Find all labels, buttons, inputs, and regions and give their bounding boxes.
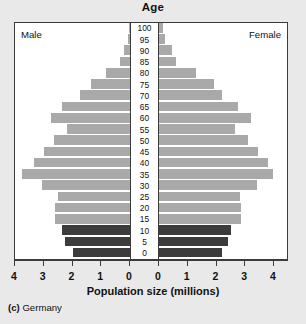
male-bar <box>65 237 130 247</box>
age-tick-label: 30 <box>131 182 158 190</box>
x-tick-label-left-2: 2 <box>62 270 82 282</box>
female-band-50 <box>159 135 287 146</box>
female-bar <box>159 102 238 112</box>
female-bar <box>159 57 176 67</box>
female-bar <box>159 237 228 247</box>
x-tick-label-right-2: 2 <box>206 270 226 282</box>
age-tick-label: 10 <box>131 227 158 235</box>
male-band-70 <box>15 90 130 101</box>
male-bar <box>55 214 130 224</box>
female-bar <box>159 225 231 235</box>
male-bars-panel <box>15 23 130 259</box>
x-tick <box>273 260 274 266</box>
age-axis: 1009590858075706560555045403530252015105… <box>130 23 159 259</box>
x-tick-label-right-1: 1 <box>177 270 197 282</box>
female-band-30 <box>159 180 287 191</box>
age-tick-label: 20 <box>131 204 158 212</box>
female-bar <box>159 158 268 168</box>
female-bars-panel <box>159 23 287 259</box>
male-band-0 <box>15 248 130 259</box>
female-band-40 <box>159 158 287 169</box>
age-tick-label: 85 <box>131 58 158 66</box>
age-tick-label: 55 <box>131 126 158 134</box>
x-tick-label-left-4: 4 <box>4 270 24 282</box>
x-tick-label-left-1: 1 <box>90 270 110 282</box>
female-bar <box>159 169 273 179</box>
male-band-25 <box>15 192 130 203</box>
age-tick-label: 90 <box>131 47 158 55</box>
x-axis-title: Population size (millions) <box>0 285 306 297</box>
x-tick <box>129 260 130 266</box>
caption-country: Germany <box>22 302 61 313</box>
age-tick-label: 5 <box>131 238 158 246</box>
male-bar <box>73 248 131 258</box>
male-bar <box>55 203 130 213</box>
male-band-5 <box>15 237 130 248</box>
female-band-20 <box>159 203 287 214</box>
female-band-10 <box>159 225 287 236</box>
female-bar <box>159 192 240 202</box>
x-tick <box>158 260 159 266</box>
female-bar <box>159 79 214 89</box>
male-band-15 <box>15 214 130 225</box>
male-band-75 <box>15 79 130 90</box>
male-bar <box>120 57 130 67</box>
male-band-40 <box>15 158 130 169</box>
female-band-65 <box>159 102 287 113</box>
caption-tag: (c) <box>8 302 20 313</box>
male-band-90 <box>15 45 130 56</box>
age-tick-label: 15 <box>131 215 158 223</box>
male-bar <box>106 68 130 78</box>
age-tick-label: 50 <box>131 137 158 145</box>
female-bar <box>159 68 196 78</box>
age-tick-label: 75 <box>131 81 158 89</box>
plot-area: 1009590858075706560555045403530252015105… <box>14 22 288 260</box>
male-bar <box>42 180 130 190</box>
male-band-30 <box>15 180 130 191</box>
male-band-35 <box>15 169 130 180</box>
x-tick <box>14 260 15 266</box>
male-band-60 <box>15 113 130 124</box>
female-side-label: Female <box>249 29 281 40</box>
male-band-55 <box>15 124 130 135</box>
x-tick-label-right-4: 4 <box>263 270 283 282</box>
female-band-15 <box>159 214 287 225</box>
female-bar <box>159 90 222 100</box>
female-bar <box>159 135 248 145</box>
female-bar <box>159 34 165 44</box>
x-tick <box>100 260 101 266</box>
female-band-25 <box>159 192 287 203</box>
female-band-0 <box>159 248 287 259</box>
x-tick <box>187 260 188 266</box>
male-bar <box>67 124 130 134</box>
male-band-50 <box>15 135 130 146</box>
female-band-5 <box>159 237 287 248</box>
chart-title: Age <box>0 1 306 13</box>
female-band-75 <box>159 79 287 90</box>
age-tick-label: 100 <box>131 24 158 32</box>
female-bar <box>159 248 222 258</box>
female-bar <box>159 124 235 134</box>
male-band-45 <box>15 147 130 158</box>
age-tick-label: 35 <box>131 171 158 179</box>
age-tick-label: 40 <box>131 159 158 167</box>
x-tick-label-left-0: 0 <box>119 270 139 282</box>
x-axis <box>14 260 288 270</box>
female-band-90 <box>159 45 287 56</box>
age-tick-label: 95 <box>131 36 158 44</box>
female-band-45 <box>159 147 287 158</box>
male-bar <box>51 113 130 123</box>
figure-caption: (c) Germany <box>8 302 62 313</box>
female-bar <box>159 23 163 33</box>
male-band-65 <box>15 102 130 113</box>
female-bar <box>159 214 241 224</box>
population-pyramid-figure: Age 100959085807570656055504540353025201… <box>0 0 306 324</box>
female-bar <box>159 203 241 213</box>
male-band-10 <box>15 225 130 236</box>
male-bar <box>62 225 130 235</box>
female-bar <box>159 45 172 55</box>
age-tick-label: 65 <box>131 103 158 111</box>
male-band-80 <box>15 68 130 79</box>
x-tick <box>43 260 44 266</box>
male-bar <box>22 169 130 179</box>
